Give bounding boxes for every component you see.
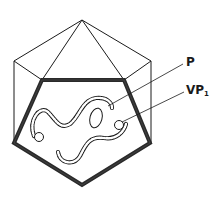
label-p: P: [186, 56, 195, 68]
genome-segments: [32, 98, 126, 163]
virus-diagram: [0, 0, 218, 200]
label-p-text: P: [186, 55, 195, 69]
label-vp1-text: VP: [186, 83, 204, 97]
label-vp1: VP1: [186, 84, 209, 98]
genome-strand-1: [32, 98, 112, 136]
vp1-terminal-protein-1: [35, 133, 44, 142]
protein-p: [88, 107, 105, 129]
genome-strand-2: [58, 124, 126, 162]
label-vp1-subscript: 1: [204, 90, 209, 98]
leader-line-p: [108, 64, 183, 106]
